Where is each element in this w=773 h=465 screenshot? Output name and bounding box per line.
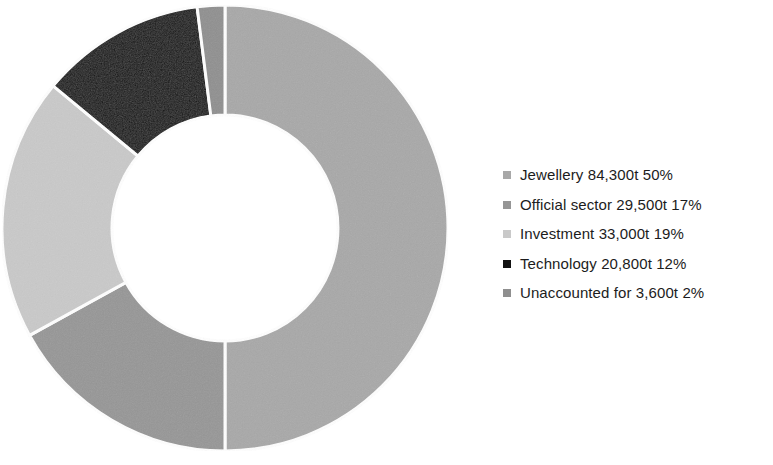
legend-item-unaccounted-for[interactable]: Unaccounted for 3,600t 2% [503, 278, 773, 308]
legend-swatch-icon [503, 289, 511, 297]
donut-chart-figure: Jewellery 84,300t 50% Official sector 29… [0, 0, 773, 465]
legend-item-label: Official sector 29,500t 17% [520, 197, 702, 212]
legend-swatch-icon [503, 260, 511, 268]
donut-slice-group [2, 5, 448, 451]
legend-item-label: Technology 20,800t 12% [520, 256, 687, 271]
legend-item-label: Jewellery 84,300t 50% [520, 167, 673, 182]
donut-chart-plot-area [0, 0, 470, 465]
legend-item-technology[interactable]: Technology 20,800t 12% [503, 249, 773, 279]
legend-item-label: Unaccounted for 3,600t 2% [520, 285, 704, 300]
legend-swatch-icon [503, 230, 511, 238]
legend-item-investment[interactable]: Investment 33,000t 19% [503, 219, 773, 249]
legend-item-label: Investment 33,000t 19% [520, 226, 684, 241]
donut-slice[interactable] [225, 5, 448, 451]
legend-swatch-icon [503, 201, 511, 209]
legend-item-jewellery[interactable]: Jewellery 84,300t 50% [503, 160, 773, 190]
chart-legend: Jewellery 84,300t 50% Official sector 29… [503, 160, 773, 308]
donut-chart-svg [0, 0, 470, 465]
legend-swatch-icon [503, 171, 511, 179]
legend-item-official-sector[interactable]: Official sector 29,500t 17% [503, 190, 773, 220]
